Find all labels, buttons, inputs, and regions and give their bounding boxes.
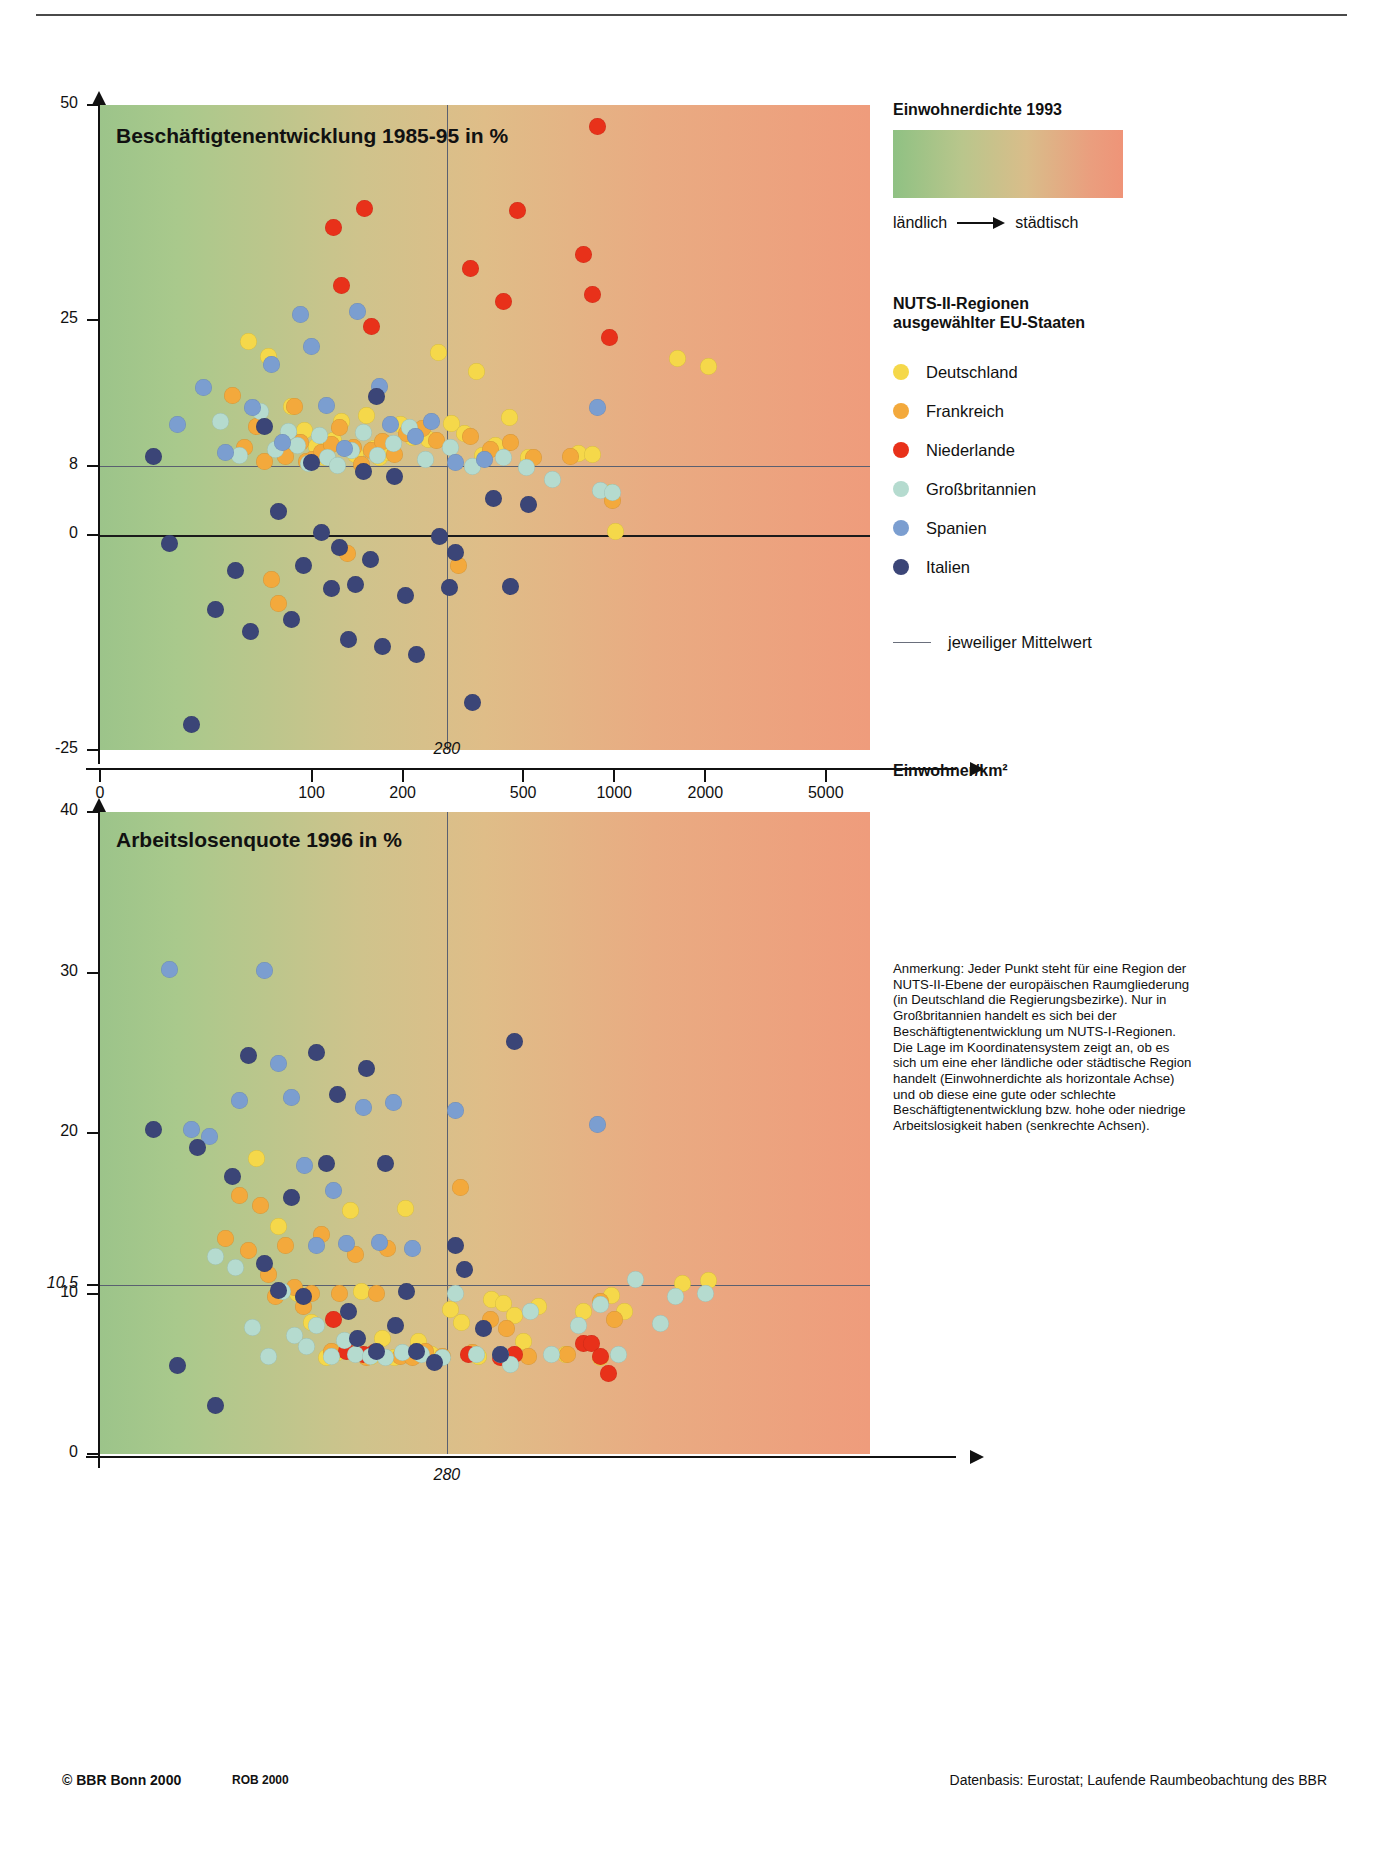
- y-tick-label: 8: [0, 455, 78, 473]
- data-point-niederlande: [462, 260, 479, 277]
- x-tick-label: 1000: [574, 784, 654, 802]
- data-point-großbritannien: [355, 424, 372, 441]
- data-point-italien: [145, 448, 162, 465]
- data-point-großbritannien: [244, 1319, 261, 1336]
- data-point-spanien: [274, 434, 291, 451]
- x-axis-title: Einwohner/km²: [893, 762, 1008, 780]
- legend-swatch-icon: [893, 442, 909, 458]
- data-point-italien: [340, 1303, 357, 1320]
- legend-item-deutschland[interactable]: Deutschland: [893, 353, 1223, 392]
- legend-swatch-icon: [893, 403, 909, 419]
- data-point-großbritannien: [543, 1346, 560, 1363]
- x-tick-label: 200: [363, 784, 443, 802]
- note-text: Anmerkung: Jeder Punkt steht für eine Re…: [893, 961, 1193, 1134]
- data-point-großbritannien: [417, 451, 434, 468]
- page-root: 502580-250100200500100020005000280 Besch…: [0, 0, 1383, 1855]
- density-color-ramp: [893, 130, 1123, 198]
- legend-item-italien[interactable]: Italien: [893, 548, 1223, 587]
- data-point-italien: [295, 1288, 312, 1305]
- data-point-spanien: [296, 1157, 313, 1174]
- data-point-italien: [397, 587, 414, 604]
- data-point-großbritannien: [260, 1348, 277, 1365]
- data-point-frankreich: [502, 434, 519, 451]
- data-point-italien: [256, 1255, 273, 1272]
- data-point-großbritannien: [570, 1317, 587, 1334]
- footer-rob: ROB 2000: [232, 1773, 289, 1787]
- legend-item-großbritannien[interactable]: Großbritannien: [893, 470, 1223, 509]
- data-point-großbritannien: [323, 1348, 340, 1365]
- y-axis-line: [98, 105, 100, 764]
- data-point-spanien: [589, 399, 606, 416]
- data-point-niederlande: [363, 318, 380, 335]
- ramp-high-label: städtisch: [1015, 214, 1078, 232]
- data-point-italien: [169, 1357, 186, 1374]
- mean-horizontal-line: [100, 1285, 870, 1286]
- data-point-frankreich: [452, 1179, 469, 1196]
- data-point-italien: [207, 1397, 224, 1414]
- data-point-deutschland: [358, 407, 375, 424]
- data-point-spanien: [161, 961, 178, 978]
- legend-items-list: DeutschlandFrankreichNiederlandeGroßbrit…: [893, 353, 1223, 587]
- y-tick-label: 20: [0, 1122, 78, 1140]
- data-point-frankreich: [252, 1197, 269, 1214]
- mean-line-icon: [893, 642, 931, 643]
- mean-x-label: 280: [417, 1466, 477, 1484]
- data-point-großbritannien: [311, 427, 328, 444]
- x-tick-label: 5000: [786, 784, 866, 802]
- y-tick: [87, 811, 100, 813]
- y-tick-label: 0: [0, 524, 78, 542]
- legend-item-label: Spanien: [926, 519, 987, 538]
- density-ramp-caption: ländlich städtisch: [893, 214, 1223, 232]
- data-point-italien: [295, 557, 312, 574]
- mean-x-label: 280: [417, 740, 477, 758]
- data-point-frankreich: [277, 1237, 294, 1254]
- legend-item-niederlande[interactable]: Niederlande: [893, 431, 1223, 470]
- data-point-deutschland: [430, 344, 447, 361]
- y-tick-label: 30: [0, 962, 78, 980]
- x-tick-label: 100: [272, 784, 352, 802]
- data-point-deutschland: [700, 358, 717, 375]
- legend-series-title-line1: NUTS-II-Regionen: [893, 294, 1223, 314]
- data-point-italien: [520, 496, 537, 513]
- data-point-großbritannien: [385, 435, 402, 452]
- arrow-right-icon: [957, 217, 1005, 229]
- legend-swatch-icon: [893, 481, 909, 497]
- y-tick: [87, 319, 100, 321]
- data-point-spanien: [349, 303, 366, 320]
- data-point-italien: [355, 463, 372, 480]
- legend-item-spanien[interactable]: Spanien: [893, 509, 1223, 548]
- data-point-niederlande: [592, 1348, 609, 1365]
- x-tick: [825, 770, 827, 782]
- data-point-spanien: [371, 1234, 388, 1251]
- legend-series-title-line2: ausgewählter EU-Staaten: [893, 313, 1223, 333]
- data-point-spanien: [336, 440, 353, 457]
- data-point-niederlande: [356, 200, 373, 217]
- legend-series-title: NUTS-II-Regionen ausgewählter EU-Staaten: [893, 294, 1223, 333]
- y-tick: [87, 972, 100, 974]
- y-tick-label: 10: [0, 1283, 78, 1301]
- data-point-italien: [362, 551, 379, 568]
- data-point-großbritannien: [604, 484, 621, 501]
- data-point-großbritannien: [212, 413, 229, 430]
- data-point-großbritannien: [329, 457, 346, 474]
- data-point-niederlande: [495, 293, 512, 310]
- data-point-italien: [183, 716, 200, 733]
- data-point-spanien: [169, 416, 186, 433]
- data-point-großbritannien: [207, 1248, 224, 1265]
- data-point-italien: [368, 388, 385, 405]
- data-point-niederlande: [601, 329, 618, 346]
- data-point-spanien: [476, 451, 493, 468]
- data-point-großbritannien: [298, 1338, 315, 1355]
- data-point-italien: [207, 601, 224, 618]
- data-point-italien: [349, 1330, 366, 1347]
- data-point-italien: [313, 524, 330, 541]
- y-tick-label: 0: [0, 1443, 78, 1461]
- legend-item-label: Niederlande: [926, 441, 1015, 460]
- data-point-frankreich: [498, 1320, 515, 1337]
- ramp-low-label: ländlich: [893, 214, 947, 232]
- data-point-italien: [464, 694, 481, 711]
- x-tick: [613, 770, 615, 782]
- data-point-frankreich: [562, 448, 579, 465]
- data-point-spanien: [355, 1099, 372, 1116]
- legend-item-frankreich[interactable]: Frankreich: [893, 392, 1223, 431]
